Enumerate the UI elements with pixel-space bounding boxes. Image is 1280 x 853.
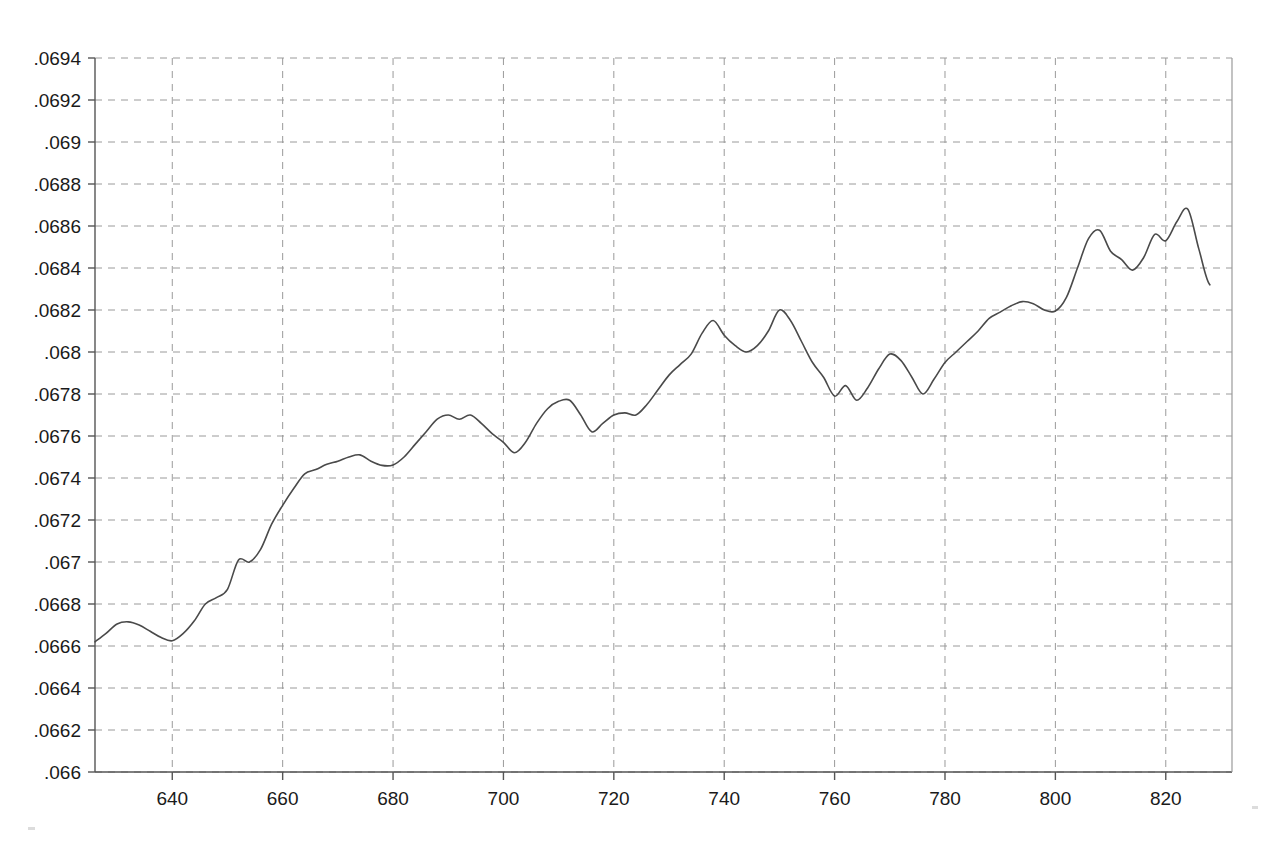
x-tick-label: 640 — [156, 788, 188, 809]
y-tick-label: .0686 — [33, 216, 81, 237]
x-tick-label: 780 — [929, 788, 961, 809]
y-tick-label: .0688 — [33, 174, 81, 195]
y-tick-label: .0676 — [33, 426, 81, 447]
y-tick-label: .0666 — [33, 636, 81, 657]
x-tick-label: 700 — [488, 788, 520, 809]
x-tick-label: 760 — [819, 788, 851, 809]
y-tick-label: .0682 — [33, 300, 81, 321]
scan-speck — [28, 827, 35, 830]
y-tick-label: .0678 — [33, 384, 81, 405]
y-tick-label: .0664 — [33, 678, 81, 699]
y-tick-label: .0694 — [33, 48, 81, 69]
scan-speck — [1252, 806, 1258, 809]
x-tick-label: 820 — [1150, 788, 1182, 809]
x-tick-label: 740 — [708, 788, 740, 809]
y-tick-label: .069 — [44, 132, 81, 153]
y-tick-label: .0662 — [33, 720, 81, 741]
chart-background — [0, 0, 1280, 853]
x-tick-label: 660 — [267, 788, 299, 809]
y-tick-label: .067 — [44, 552, 81, 573]
y-tick-label: .0692 — [33, 90, 81, 111]
y-tick-label: .0684 — [33, 258, 81, 279]
y-tick-label: .066 — [44, 762, 81, 783]
x-tick-label: 800 — [1040, 788, 1072, 809]
x-tick-label: 720 — [598, 788, 630, 809]
y-tick-label: .0672 — [33, 510, 81, 531]
line-chart: .066.0662.0664.0666.0668.067.0672.0674.0… — [0, 0, 1280, 853]
y-tick-label: .068 — [44, 342, 81, 363]
y-tick-label: .0668 — [33, 594, 81, 615]
x-tick-label: 680 — [377, 788, 409, 809]
chart-container: .066.0662.0664.0666.0668.067.0672.0674.0… — [0, 0, 1280, 853]
y-tick-label: .0674 — [33, 468, 81, 489]
